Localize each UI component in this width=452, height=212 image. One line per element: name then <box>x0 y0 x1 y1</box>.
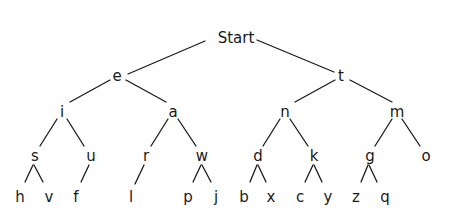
node-l: l <box>129 188 133 206</box>
edge-a-r <box>151 119 168 146</box>
tree-nodes: Startetianmsurwdkgohvflpjbxcyzq <box>15 29 430 206</box>
edge-u-f <box>81 165 89 182</box>
node-i: i <box>60 103 64 121</box>
node-j: j <box>213 188 218 206</box>
node-n: n <box>280 103 290 121</box>
edge-e-i <box>70 80 110 102</box>
node-d: d <box>253 147 263 165</box>
edge-e-a <box>126 80 166 102</box>
edge-start-t <box>257 40 334 72</box>
edge-d-x <box>258 165 266 182</box>
node-f: f <box>73 188 79 206</box>
node-z: z <box>352 188 360 206</box>
edge-s-v <box>34 165 43 182</box>
edge-i-s <box>40 119 57 146</box>
edge-r-l <box>135 165 144 184</box>
node-r: r <box>143 147 150 165</box>
node-s: s <box>31 147 39 165</box>
node-p: p <box>183 188 193 206</box>
node-b: b <box>239 188 249 206</box>
edge-w-j <box>202 165 211 182</box>
edge-start-e <box>128 41 205 74</box>
node-g: g <box>365 147 375 165</box>
edge-w-p <box>193 165 201 182</box>
edge-i-u <box>67 119 84 146</box>
node-a: a <box>168 103 177 121</box>
edge-k-c <box>305 165 313 182</box>
node-t: t <box>338 67 344 85</box>
node-w: w <box>196 147 208 165</box>
node-c: c <box>296 188 304 206</box>
edge-g-z <box>361 165 368 182</box>
edge-n-d <box>263 119 280 146</box>
tree-diagram: Startetianmsurwdkgohvflpjbxcyzq <box>0 0 452 212</box>
node-start: Start <box>218 29 255 47</box>
node-m: m <box>390 103 405 121</box>
edge-a-w <box>178 119 196 146</box>
node-e: e <box>112 67 121 85</box>
node-v: v <box>45 188 54 206</box>
node-x: x <box>267 188 276 206</box>
edge-g-q <box>369 165 377 182</box>
edge-k-y <box>314 165 322 182</box>
edge-d-b <box>250 165 257 182</box>
node-y: y <box>324 188 333 206</box>
node-q: q <box>380 188 390 206</box>
node-u: u <box>86 147 96 165</box>
tree-edges <box>25 40 420 184</box>
edge-t-m <box>350 80 392 102</box>
edge-s-h <box>25 165 33 182</box>
node-k: k <box>310 147 319 165</box>
edge-t-n <box>295 80 335 102</box>
edge-m-o <box>402 119 420 146</box>
edge-m-g <box>375 119 392 146</box>
node-h: h <box>15 188 25 206</box>
node-o: o <box>421 147 430 165</box>
edge-n-k <box>290 119 308 146</box>
